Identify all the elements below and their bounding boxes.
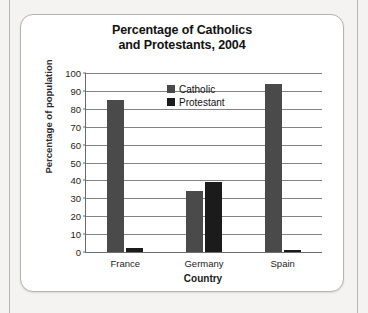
plot-wrapper: Percentage of population 100908070605040… bbox=[21, 15, 343, 291]
bar-france-protestant[interactable] bbox=[126, 248, 143, 252]
y-tick-label-40: 40 bbox=[70, 175, 81, 186]
legend-swatch-protestant-icon bbox=[167, 98, 175, 106]
y-tick-label-60: 60 bbox=[70, 139, 81, 150]
page-margin-rule-right bbox=[357, 0, 358, 313]
chart-card: Percentage of Catholics and Protestants,… bbox=[20, 14, 344, 292]
x-axis-title: Country bbox=[85, 273, 321, 284]
x-tick-label-spain: Spain bbox=[243, 258, 323, 269]
gridline-0 bbox=[86, 252, 322, 253]
bar-spain-catholic[interactable] bbox=[265, 84, 282, 252]
y-tick-label-90: 90 bbox=[70, 85, 81, 96]
legend-label-protestant: Protestant bbox=[179, 97, 225, 108]
y-tick-label-10: 10 bbox=[70, 229, 81, 240]
bar-france-catholic[interactable] bbox=[107, 100, 124, 252]
bar-germany-catholic[interactable] bbox=[186, 191, 203, 252]
legend-label-catholic: Catholic bbox=[179, 84, 215, 95]
legend-item-catholic[interactable]: Catholic bbox=[167, 83, 225, 95]
y-tick-label-80: 80 bbox=[70, 103, 81, 114]
page-margin-rule-left bbox=[9, 0, 10, 313]
y-tick-label-0: 0 bbox=[76, 247, 81, 258]
y-tick-label-50: 50 bbox=[70, 157, 81, 168]
bar-spain-protestant[interactable] bbox=[284, 250, 301, 252]
y-tick-label-100: 100 bbox=[65, 68, 81, 79]
legend-item-protestant[interactable]: Protestant bbox=[167, 96, 225, 108]
x-tick-label-germany: Germany bbox=[164, 258, 244, 269]
bar-group-france: France bbox=[86, 73, 165, 252]
x-tick-label-france: France bbox=[85, 258, 165, 269]
y-tick-label-20: 20 bbox=[70, 211, 81, 222]
legend-swatch-catholic-icon bbox=[167, 85, 175, 93]
chart-legend: CatholicProtestant bbox=[167, 83, 225, 109]
y-axis-title: Percentage of population bbox=[43, 42, 54, 192]
bar-germany-protestant[interactable] bbox=[205, 182, 222, 252]
y-tick-label-70: 70 bbox=[70, 121, 81, 132]
y-tick-label-30: 30 bbox=[70, 193, 81, 204]
bar-group-spain: Spain bbox=[243, 73, 322, 252]
